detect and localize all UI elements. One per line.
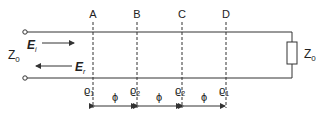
svg-text:D: D: [222, 8, 230, 20]
transmission-line-diagram: Z0 Z0 Ei Er A ϱ1 B ϱ2 C ϱ2 D ϱ1 ϕ ϕ: [0, 0, 321, 117]
plane-B: B ϱ2: [130, 8, 141, 108]
svg-text:C: C: [178, 8, 186, 20]
svg-text:A: A: [89, 8, 97, 20]
svg-text:ϕ: ϕ: [201, 91, 207, 103]
plane-C: C ϱ2: [175, 8, 186, 108]
bottom-terminal-icon: [23, 76, 27, 80]
source-impedance-label: Z0: [8, 48, 20, 64]
svg-text:B: B: [133, 8, 140, 20]
reflected-wave-label: Er: [75, 60, 86, 75]
svg-text:ϕ: ϕ: [156, 91, 162, 103]
plane-D: D ϱ1: [219, 8, 230, 108]
svg-text:ϱ1: ϱ1: [84, 84, 94, 97]
plane-A: A ϱ1: [84, 8, 97, 108]
svg-text:ϱ1: ϱ1: [219, 84, 229, 97]
svg-text:ϕ: ϕ: [112, 91, 118, 103]
load-resistor-icon: [287, 32, 297, 78]
top-terminal-icon: [23, 30, 27, 34]
incident-wave-label: Ei: [27, 38, 37, 53]
svg-text:ϱ2: ϱ2: [175, 84, 185, 97]
load-impedance-label: Z0: [304, 47, 316, 63]
svg-text:ϱ2: ϱ2: [130, 84, 140, 97]
